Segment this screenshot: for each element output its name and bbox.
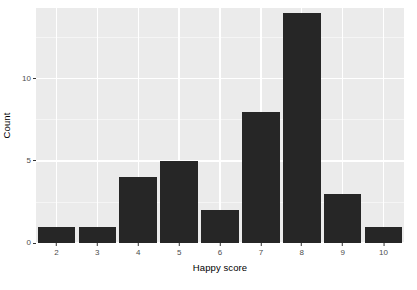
x-axis-tick: 9 <box>340 243 344 258</box>
bar <box>242 112 280 243</box>
gridline-major-vertical <box>383 8 384 243</box>
y-axis-tick-label: 10 <box>22 74 33 84</box>
x-axis-tick-label: 8 <box>300 247 304 258</box>
x-axis-tick-label: 6 <box>218 247 222 258</box>
bar <box>201 210 239 243</box>
x-axis-tick: 4 <box>136 243 140 258</box>
gridline-major-vertical <box>56 8 57 243</box>
bar <box>160 161 198 243</box>
x-axis-tick: 7 <box>259 243 263 258</box>
y-axis-tick: 10 <box>22 74 36 84</box>
x-axis-tick-mark <box>97 243 98 246</box>
bar <box>365 227 403 243</box>
bar <box>79 227 117 243</box>
x-axis-tick: 6 <box>218 243 222 258</box>
gridline-major-vertical <box>97 8 98 243</box>
x-axis-tick-label: 3 <box>95 247 99 258</box>
y-axis-tick: 5 <box>27 156 36 166</box>
x-axis-tick-label: 5 <box>177 247 181 258</box>
x-axis-tick-label: 4 <box>136 247 140 258</box>
x-axis-tick-label: 2 <box>54 247 58 258</box>
x-axis-tick-mark <box>342 243 343 246</box>
histogram-chart: Count 0510 2345678910 Happy score <box>0 0 417 290</box>
x-axis-tick-mark <box>383 243 384 246</box>
x-axis-tick-label: 7 <box>259 247 263 258</box>
x-axis-tick: 10 <box>379 243 388 258</box>
x-axis-tick-mark <box>138 243 139 246</box>
x-axis-tick-mark <box>179 243 180 246</box>
y-axis-title-label: Count <box>2 112 13 138</box>
bar <box>119 177 157 243</box>
x-axis-tick: 5 <box>177 243 181 258</box>
gridline-major-vertical <box>219 8 220 243</box>
plot-panel <box>36 8 404 243</box>
x-axis-tick-mark <box>56 243 57 246</box>
y-axis-tick: 0 <box>27 238 36 248</box>
y-axis-ticks: 0510 <box>14 0 36 290</box>
x-axis-tick-label: 10 <box>379 247 388 258</box>
y-axis-title: Count <box>0 0 14 250</box>
bar <box>38 227 76 243</box>
x-axis-tick-label: 9 <box>340 247 344 258</box>
x-axis-tick: 8 <box>300 243 304 258</box>
x-axis-ticks: 2345678910 <box>36 243 404 263</box>
x-axis-tick-mark <box>219 243 220 246</box>
bar <box>324 194 362 243</box>
bar <box>283 13 321 243</box>
x-axis-tick-mark <box>260 243 261 246</box>
x-axis-tick: 3 <box>95 243 99 258</box>
x-axis-tick-mark <box>301 243 302 246</box>
x-axis-title: Happy score <box>36 262 404 273</box>
x-axis-tick: 2 <box>54 243 58 258</box>
